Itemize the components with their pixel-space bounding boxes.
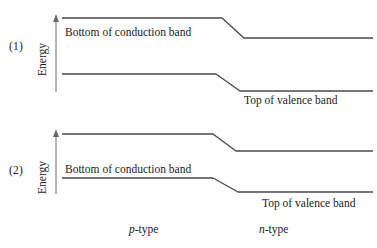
region-labels: p-type n-type — [0, 224, 377, 244]
valence-band-curve-1 — [62, 74, 373, 91]
band-diagram-figure: (1) Energy Bottom of conduction band Top… — [0, 0, 377, 248]
conduction-band-label-1: Bottom of conduction band — [65, 27, 191, 39]
n-type-suffix: -type — [265, 223, 289, 235]
p-type-suffix: -type — [135, 223, 159, 235]
n-type-label: n-type — [259, 224, 288, 236]
band-diagram-panel-1: (1) Energy Bottom of conduction band Top… — [0, 0, 377, 116]
valence-band-label-1: Top of valence band — [244, 95, 337, 107]
conduction-band-label-2: Bottom of conduction band — [65, 164, 191, 176]
band-diagram-panel-2: (2) Energy Bottom of conduction band Top… — [0, 124, 377, 220]
conduction-band-curve-2 — [62, 134, 373, 151]
valence-band-curve-2 — [62, 178, 373, 192]
p-type-label: p-type — [129, 224, 158, 236]
valence-band-label-2: Top of valence band — [262, 198, 355, 210]
